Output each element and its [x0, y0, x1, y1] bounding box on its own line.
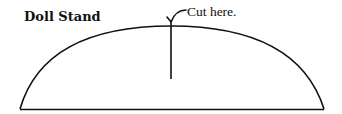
cut-arrow-icon [167, 10, 186, 22]
arc-outline [20, 26, 324, 109]
doll-stand-pattern [0, 0, 342, 114]
